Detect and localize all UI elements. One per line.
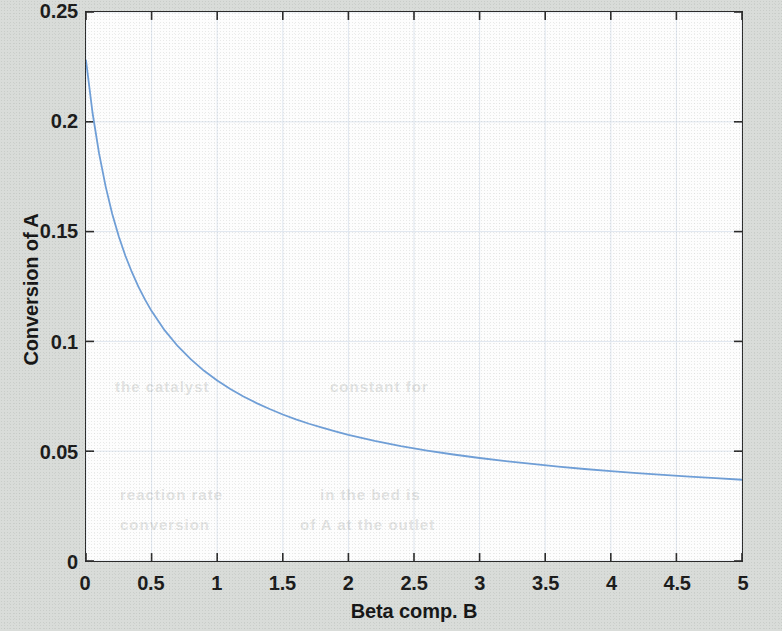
x-axis-tick-labels: 00.511.522.533.544.55 (0, 0, 782, 631)
x-tick-label: 1 (211, 572, 222, 595)
x-tick-label: 3 (474, 572, 485, 595)
x-tick-label: 5 (738, 572, 749, 595)
x-tick-label: 3.5 (532, 572, 559, 595)
x-tick-label: 2 (343, 572, 354, 595)
x-tick-label: 0.5 (137, 572, 164, 595)
x-tick-label: 4.5 (664, 572, 691, 595)
chart-figure: the catalystconstant forreaction ratein … (0, 0, 782, 631)
y-axis-title: Conversion of A (20, 185, 43, 395)
x-tick-label: 4 (606, 572, 617, 595)
x-tick-label: 2.5 (400, 572, 427, 595)
x-axis-title: Beta comp. B (85, 600, 743, 623)
x-tick-label: 0 (80, 572, 91, 595)
x-tick-label: 1.5 (269, 572, 296, 595)
